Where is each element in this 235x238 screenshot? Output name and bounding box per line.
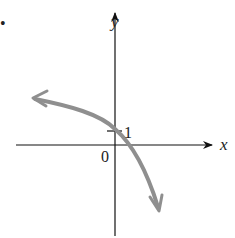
function-curve <box>35 99 158 207</box>
item-bullet: • <box>0 15 6 32</box>
x-axis-label: x <box>219 135 228 154</box>
graph-canvas: • y x 0 1 <box>0 0 235 238</box>
y-tick-label: 1 <box>124 124 132 141</box>
y-axis-label: y <box>109 12 119 31</box>
origin-label: 0 <box>101 148 109 165</box>
